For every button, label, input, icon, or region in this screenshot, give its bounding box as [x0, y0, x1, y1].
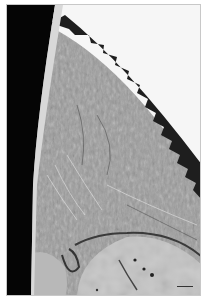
micrograph-frame [6, 4, 201, 296]
histology-image [7, 5, 201, 296]
scale-bar [177, 286, 193, 287]
